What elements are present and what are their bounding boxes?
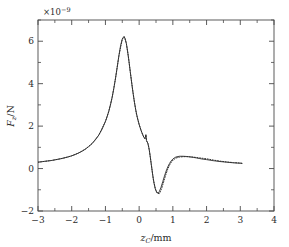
y-tick-label: 0 <box>28 164 34 174</box>
x-tick-label: 2 <box>204 215 210 225</box>
y-tick-label: −2 <box>21 206 34 216</box>
y-tick-label: 6 <box>28 36 34 46</box>
y-tick-label: 4 <box>28 79 34 89</box>
x-tick-label: 1 <box>170 215 176 225</box>
x-tick-label: −1 <box>99 215 112 225</box>
scientific-line-plot: −3−2−101234 −20246 ×10−9 Fz/N zC/mm <box>0 0 289 247</box>
x-tick-label: −2 <box>65 215 78 225</box>
x-tick-label: 0 <box>136 215 142 225</box>
x-tick-label: −3 <box>31 215 45 225</box>
figure-background <box>0 0 289 247</box>
y-tick-label: 2 <box>28 121 34 131</box>
figure-container: −3−2−101234 −20246 ×10−9 Fz/N zC/mm <box>0 0 289 247</box>
x-tick-label: 3 <box>237 215 243 225</box>
x-tick-label: 4 <box>271 215 277 225</box>
